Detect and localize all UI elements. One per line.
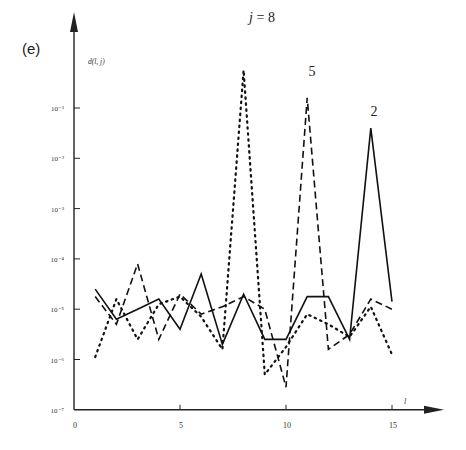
series-dashed-line xyxy=(95,98,392,387)
series-solid-line xyxy=(95,128,392,344)
y-tick-label: 10⁻⁴ xyxy=(51,256,65,264)
series-dotted-line xyxy=(95,70,392,374)
x-tick-label: 15 xyxy=(389,421,397,430)
y-tick-label: 10⁻² xyxy=(51,155,64,163)
x-tick-label: 10 xyxy=(283,421,291,430)
line-chart: 10⁻¹10⁻²10⁻³10⁻⁴10⁻⁵10⁻⁶10⁻⁷051015d(l, j… xyxy=(0,0,466,450)
x-tick-label: 0 xyxy=(73,421,77,430)
y-tick-label: 10⁻³ xyxy=(51,206,64,214)
annotations: 25j = 8 xyxy=(247,10,377,119)
y-axis-arrow-icon xyxy=(70,12,78,32)
y-tick-label: 10⁻¹ xyxy=(51,105,64,113)
x-axis-label: l xyxy=(404,397,407,406)
series-annotation: 5 xyxy=(309,64,316,79)
x-tick-label: 5 xyxy=(179,421,183,430)
y-tick-label: 10⁻⁶ xyxy=(51,357,65,365)
y-tick-label: 10⁻⁵ xyxy=(51,306,65,314)
y-tick-label: 10⁻⁷ xyxy=(51,407,65,415)
y-axis-label: d(l, j) xyxy=(88,57,105,66)
series-annotation: 2 xyxy=(371,104,378,119)
series-annotation: j = 8 xyxy=(247,10,275,25)
axes: 10⁻¹10⁻²10⁻³10⁻⁴10⁻⁵10⁻⁶10⁻⁷051015d(l, j… xyxy=(51,12,444,430)
series-lines xyxy=(95,70,392,387)
x-axis-arrow-icon xyxy=(424,406,444,414)
